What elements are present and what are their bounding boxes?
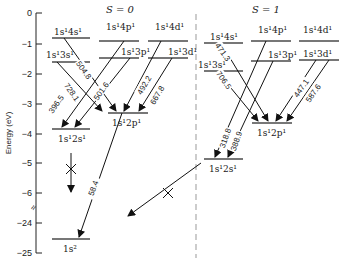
- level-label: 1s¹3p¹: [121, 47, 150, 57]
- cross-icon: [163, 188, 173, 198]
- axis-title: Energy (eV): [4, 111, 13, 154]
- triplet-header: S = 1: [252, 4, 280, 15]
- level-t1_2p: 1s¹2p¹: [252, 123, 292, 138]
- transition-388_9: 388.9: [228, 61, 273, 157]
- energy-axis: 0−1−2−3−4−5−6−24−25 Energy (eV) ≈: [4, 8, 42, 258]
- axis-tick-label: −1: [22, 39, 32, 49]
- level-label: 1s¹4s¹: [210, 32, 238, 42]
- axis-tick-label: −4: [22, 129, 32, 139]
- level-t1_4p: 1s¹4p¹: [251, 25, 291, 41]
- level-label: 1s²: [63, 244, 77, 254]
- energy-levels: 1s¹4s¹1s¹3s¹1s¹4p¹1s¹3p¹1s¹4d¹1s¹3d¹1s¹2…: [46, 22, 339, 254]
- level-label: 1s¹4d¹: [303, 25, 332, 35]
- axis-tick-label: −6: [22, 188, 32, 198]
- level-label: 1s¹4p¹: [258, 25, 287, 35]
- level-t1_2s: 1s¹2s¹: [204, 159, 243, 174]
- axis-tick-label: −25: [17, 248, 32, 258]
- transitions: 504.8728.1396.5501.6492.2667.858.4471.37…: [46, 38, 329, 237]
- axis-tick-label: −24: [17, 218, 32, 228]
- level-t1_4s: 1s¹4s¹: [204, 32, 243, 43]
- singlet-header: S = 0: [106, 4, 135, 15]
- forbidden-triplet_2s_to_ground: [128, 163, 201, 216]
- axis-break-icon: ≈: [28, 203, 39, 212]
- transition-58_4: 58.4: [79, 113, 122, 237]
- transition-arrow: [79, 113, 122, 237]
- level-s0_4s: 1s¹4s¹: [52, 27, 90, 38]
- transition-706_5: 706.5: [214, 68, 258, 121]
- diagram-canvas: 0−1−2−3−4−5−6−24−25 Energy (eV) ≈ S = 0 …: [0, 0, 347, 265]
- level-s0_2p: 1s¹2p¹: [108, 113, 148, 128]
- axis-tick-label: −5: [22, 158, 32, 168]
- level-label: 1s¹4d¹: [155, 22, 184, 32]
- level-t1_4d: 1s¹4d¹: [299, 25, 339, 41]
- level-s0_2s: 1s¹2s¹: [52, 129, 90, 144]
- level-label: 1s¹2p¹: [257, 128, 286, 138]
- forbidden-transitions: [66, 153, 201, 216]
- level-s0_4p: 1s¹4p¹: [99, 22, 139, 41]
- level-s0_4d: 1s¹4d¹: [148, 22, 188, 41]
- level-label: 1s¹4s¹: [54, 27, 82, 37]
- level-label: 1s¹4p¹: [106, 22, 135, 32]
- level-label: 1s¹3d¹: [168, 47, 197, 57]
- energy-level-diagram: 0−1−2−3−4−5−6−24−25 Energy (eV) ≈ S = 0 …: [0, 0, 347, 265]
- level-label: 1s¹2s¹: [209, 164, 237, 174]
- level-label: 1s¹3p¹: [268, 50, 297, 60]
- level-label: 1s¹2p¹: [112, 118, 141, 128]
- forbidden-singlet_2s_to_ground: [66, 153, 76, 192]
- level-s0_1s: 1s²: [52, 239, 90, 254]
- axis-tick-label: 0: [27, 8, 32, 18]
- axis-tick-label: −2: [22, 69, 32, 79]
- level-s0_3p: 1s¹3p¹: [99, 47, 150, 58]
- level-t1_3d: 1s¹3d¹: [299, 49, 339, 60]
- axis-tick-label: −3: [22, 99, 32, 109]
- level-s0_3s: 1s¹3s¹: [46, 50, 90, 62]
- level-label: 1s¹3d¹: [303, 49, 332, 59]
- level-label: 1s¹3s¹: [46, 50, 74, 60]
- level-label: 1s¹2s¹: [58, 134, 86, 144]
